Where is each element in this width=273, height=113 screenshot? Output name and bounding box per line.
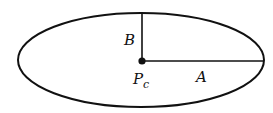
label-pc: Pc: [132, 70, 149, 91]
label-b: B: [123, 31, 135, 49]
center-point: [138, 57, 145, 64]
label-pc-sub: c: [143, 78, 149, 91]
ellipse-diagram: B A Pc: [0, 0, 273, 113]
label-a: A: [194, 68, 207, 86]
